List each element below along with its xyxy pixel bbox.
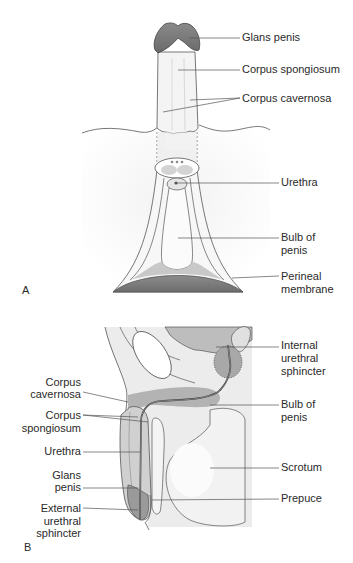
label-b-bulb-of-penis-line2: penis [281, 411, 307, 424]
label-b-corpus-spongiosum-line1: Corpus [46, 409, 81, 422]
label-b-prepuce: Prepuce [281, 492, 322, 505]
panel-letter-b: B [24, 541, 31, 553]
label-b-internal-urethral-sphincter-line1: Internal [281, 339, 318, 352]
label-urethra: Urethra [281, 176, 318, 189]
label-b-glans-penis-line2: penis [55, 481, 81, 494]
panel-letter-a: A [22, 284, 29, 296]
label-b-internal-urethral-sphincter-line3: sphincter [281, 365, 326, 378]
label-corpus-spongiosum: Corpus spongiosum [242, 63, 340, 76]
label-b-internal-urethral-sphincter-line2: urethral [281, 352, 318, 365]
label-glans-penis: Glans penis [242, 31, 300, 44]
label-b-corpus-cavernosa-line2: cavernosa [30, 388, 81, 401]
label-b-urethra: Urethra [44, 445, 81, 458]
label-perineal-membrane-line1: Perineal [281, 270, 321, 283]
shaft [157, 52, 198, 134]
label-bulb-of-penis-line1: Bulb of [281, 231, 315, 244]
label-b-bulb-of-penis-line1: Bulb of [281, 398, 315, 411]
label-b-scrotum: Scrotum [281, 461, 322, 474]
label-bulb-of-penis-line2: penis [281, 244, 307, 257]
label-corpus-cavernosa: Corpus cavernosa [242, 92, 331, 105]
label-perineal-membrane-line2: membrane [281, 283, 334, 296]
anatomy-figure: Glans penis Corpus spongiosum Corpus cav… [0, 0, 353, 563]
label-b-external-urethral-sphincter-line1: External [41, 502, 81, 515]
label-b-external-urethral-sphincter-line3: sphincter [36, 527, 81, 540]
label-b-corpus-spongiosum-line2: spongiosum [22, 422, 81, 435]
